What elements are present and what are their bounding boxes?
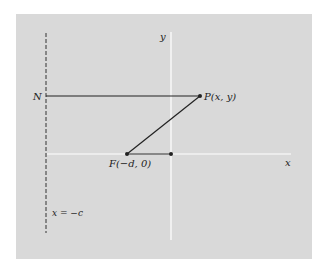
label-P: P(x, y) (203, 91, 236, 102)
label-F: F(−d, 0) (108, 158, 151, 169)
label-directrix: x = −c (52, 208, 83, 218)
segment-PF (127, 96, 200, 154)
label-y-axis: y (159, 31, 166, 42)
diagram-canvas: y x N P(x, y) F(−d, 0) x = −c (0, 0, 323, 273)
point-F (125, 152, 129, 156)
point-P (198, 94, 202, 98)
label-N: N (32, 91, 43, 102)
point-origin (169, 152, 173, 156)
label-x-axis: x (285, 157, 291, 168)
